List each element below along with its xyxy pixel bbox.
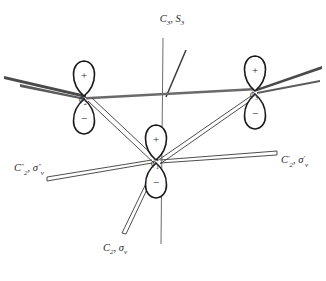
orbital-phi3-top-sign: +: [252, 64, 258, 76]
orbital-phi1-bottom-sign: −: [153, 176, 159, 188]
orbital-phi2-bottom-sign: −: [81, 112, 87, 124]
orbital-phi1-subscript: 1: [156, 163, 159, 170]
orbital-symmetry-diagram: + − ϕ2 + − ϕ3 + − ϕ1 C3, S3 C″2, σ″v C′2…: [0, 0, 326, 281]
orbital-phi2-top-sign: +: [81, 69, 87, 81]
orbital-phi3-bottom-sign: −: [252, 107, 258, 119]
label-c3-s3-second-sub: 3: [180, 19, 185, 27]
orbital-phi1-top-sign: +: [153, 133, 159, 145]
